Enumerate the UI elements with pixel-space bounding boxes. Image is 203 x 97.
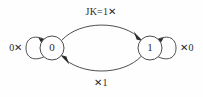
edge-label-self-loop-state-1: ✕0 bbox=[180, 42, 193, 53]
state-node-1-label: 1 bbox=[147, 41, 153, 53]
fsm-canvas: 0 1 0✕ JK=1✕ ✕1 ✕0 bbox=[0, 0, 203, 97]
edge-label-transition-1-to-0: ✕1 bbox=[94, 77, 107, 88]
state-diagram: 0 1 0✕ JK=1✕ ✕1 ✕0 bbox=[0, 0, 203, 97]
state-node-0-label: 0 bbox=[49, 41, 55, 53]
transition-0-to-1-arc bbox=[62, 25, 142, 40]
edge-label-transition-0-to-1: JK=1✕ bbox=[86, 6, 117, 17]
state-node-0[interactable]: 0 bbox=[40, 36, 64, 60]
edge-label-self-loop-state-0: 0✕ bbox=[9, 42, 22, 53]
state-node-1[interactable]: 1 bbox=[138, 36, 162, 60]
transition-0-to-1 bbox=[62, 25, 143, 41]
transition-1-to-0-arc bbox=[62, 56, 142, 71]
transition-1-to-0 bbox=[61, 55, 142, 71]
